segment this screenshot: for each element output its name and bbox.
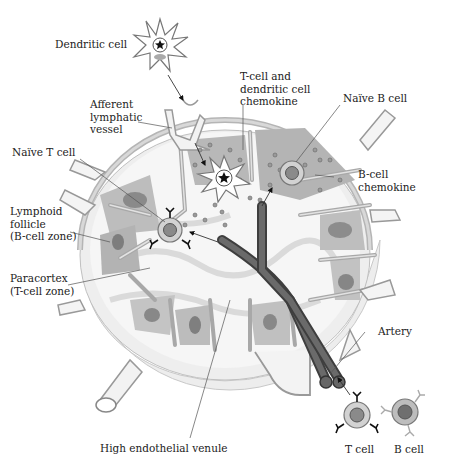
t-cell: [336, 392, 378, 433]
label-high-endothelial-venule: High endothelial venule: [100, 442, 227, 455]
label-afferent-lymphatic-vessel: Afferent lymphatic vessel: [90, 98, 142, 136]
label-b-cell-chemokine: B-cell chemokine: [358, 168, 416, 193]
label-lymphoid-follicle: Lymphoid follicle (B-cell zone): [10, 205, 77, 243]
label-b-cell: B cell: [394, 443, 424, 456]
label-paracortex: Paracortex (T-cell zone): [10, 272, 74, 297]
label-t-dc-chemokine: T-cell and dendritic cell chemokine: [240, 70, 310, 108]
label-naive-b-cell: Naïve B cell: [343, 92, 407, 105]
efferent-vessel: [96, 360, 142, 412]
lymph-node-diagram: Dendritic cell Afferent lymphatic vessel…: [0, 0, 449, 464]
dendritic-cell: [134, 19, 188, 71]
label-naive-t-cell: Naïve T cell: [12, 146, 75, 159]
b-cell: [381, 390, 425, 436]
naive-b-cell: [280, 161, 304, 185]
label-t-cell: T cell: [345, 443, 374, 456]
label-artery: Artery: [378, 325, 412, 338]
label-dendritic-cell: Dendritic cell: [55, 38, 127, 51]
